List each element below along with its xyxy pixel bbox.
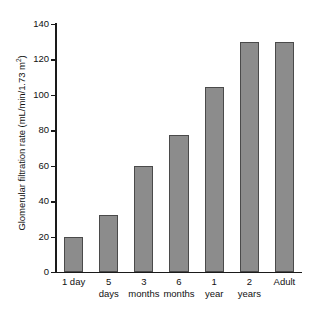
y-axis-tick-mark (51, 272, 56, 273)
y-axis-tick-label: 0 (44, 265, 49, 279)
y-axis-title-tail: ) (16, 55, 27, 58)
plot-area: 020406080100120140 (56, 24, 302, 272)
y-axis-tick-mark (51, 166, 56, 167)
y-axis-tick-label: 80 (38, 123, 49, 137)
x-axis-tick-label: Adult (267, 276, 302, 288)
bar (275, 42, 294, 272)
y-axis-tick-mark (51, 95, 56, 96)
y-axis-tick-mark (51, 201, 56, 202)
y-axis-tick-mark (51, 59, 56, 60)
bar (205, 87, 224, 272)
y-axis-tick-label: 100 (33, 88, 49, 102)
x-axis-tick-label: 3 months (126, 276, 161, 299)
y-axis-tick-label: 140 (33, 17, 49, 31)
x-axis-tick-label: 1 year (197, 276, 232, 299)
x-axis-tick-label: 2 years (232, 276, 267, 299)
glomerular-filtration-rate-bar-chart: Glomerular filtration rate (mL/min/1.73 … (0, 0, 310, 311)
y-axis-tick-mark (51, 24, 56, 25)
y-axis-title-superscript: 2 (15, 59, 22, 63)
bar (134, 166, 153, 272)
y-axis-title: Glomerular filtration rate (mL/min/1.73 … (12, 18, 32, 268)
bar (64, 237, 83, 272)
y-axis-tick-label: 20 (38, 230, 49, 244)
x-axis-tick-label: 5 days (91, 276, 126, 299)
y-axis-tick-label: 60 (38, 159, 49, 173)
bar (169, 135, 188, 272)
x-axis-tick-label: 1 day (56, 276, 91, 288)
bar (99, 215, 118, 272)
y-axis-tick-mark (51, 237, 56, 238)
y-axis-tick-label: 40 (38, 194, 49, 208)
x-axis-tick-label: 6 months (161, 276, 196, 299)
y-axis-title-main: Glomerular filtration rate (mL/min/1.73 … (16, 62, 27, 230)
bar (240, 42, 259, 272)
y-axis-tick-label: 120 (33, 52, 49, 66)
y-axis-tick-mark (51, 130, 56, 131)
